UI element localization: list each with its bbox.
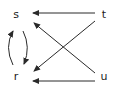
node-u: u	[101, 71, 108, 82]
edge-s-to-r	[23, 31, 27, 64]
node-s: s	[13, 9, 19, 20]
edge-u-to-s	[34, 23, 95, 73]
edge-r-to-s	[9, 31, 14, 65]
graph-diagram: s t r u	[0, 0, 113, 88]
node-r: r	[14, 71, 19, 82]
edge-t-to-r	[34, 21, 95, 71]
node-t: t	[102, 9, 106, 20]
